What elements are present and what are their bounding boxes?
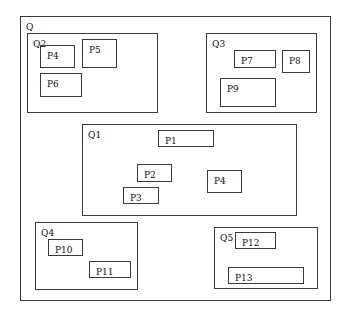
region-q4: Q4	[35, 222, 138, 290]
page-label: P10	[55, 245, 73, 255]
page-box-p6: P6	[40, 73, 82, 97]
page-box-p3: P3	[123, 187, 159, 204]
page-box-p4: P4	[207, 170, 242, 193]
page-label: P5	[89, 45, 101, 55]
page-box-p7: P7	[234, 50, 276, 68]
page-box-p2: P2	[137, 164, 172, 182]
page-label: P4	[47, 51, 59, 61]
page-label: P7	[241, 56, 253, 66]
page-label: P6	[47, 79, 59, 89]
page-label: P3	[130, 193, 142, 203]
page-box-p1: P1	[158, 130, 214, 147]
page-box-p11: P11	[89, 261, 131, 278]
page-label: P13	[235, 273, 253, 283]
region-label: Q1	[88, 130, 101, 140]
region-label: Q	[26, 22, 33, 32]
diagram-canvas: Q Q2P4P5P6Q3P7P8P9Q1P1P2P4P3Q4P10P11Q5P1…	[0, 0, 348, 315]
page-label: P2	[144, 170, 156, 180]
page-box-p4: P4	[40, 45, 75, 68]
region-label: Q3	[212, 39, 225, 49]
page-label: P1	[165, 136, 177, 146]
page-label: P9	[227, 84, 239, 94]
page-box-p12: P12	[235, 232, 276, 249]
page-label: P12	[242, 238, 260, 248]
page-label: P11	[96, 267, 114, 277]
page-box-p10: P10	[48, 239, 83, 256]
page-label: P8	[289, 56, 301, 66]
region-label: Q5	[220, 233, 233, 243]
page-label: P4	[214, 176, 226, 186]
region-label: Q4	[41, 228, 54, 238]
page-box-p9: P9	[220, 78, 276, 107]
page-box-p5: P5	[82, 39, 117, 68]
page-box-p8: P8	[282, 50, 310, 73]
page-box-p13: P13	[228, 267, 304, 284]
